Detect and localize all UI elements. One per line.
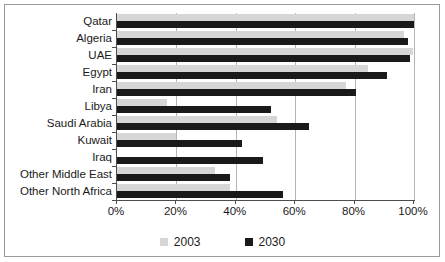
bar-2003 (117, 116, 277, 123)
bar-2003 (117, 99, 167, 106)
bar-group (117, 98, 414, 115)
gridline (414, 13, 415, 200)
bar-group (117, 166, 414, 183)
bar-group (117, 47, 414, 64)
category-tick (112, 98, 116, 99)
axis-tick (116, 200, 117, 204)
bar-2003 (117, 48, 413, 55)
category-tick (112, 200, 116, 201)
bar-2030 (117, 89, 356, 96)
category-tick (112, 81, 116, 82)
bar-2003 (117, 31, 404, 38)
legend-swatch-2003 (160, 238, 168, 246)
bar-2030 (117, 38, 408, 45)
bar-2003 (117, 133, 176, 140)
bar-2030 (117, 123, 309, 130)
bar-2003 (117, 82, 346, 89)
category-tick (112, 183, 116, 184)
category-label: Other North Africa (20, 183, 112, 200)
bar-2030 (117, 72, 387, 79)
bar-2003 (117, 184, 230, 191)
axis-tick-label: 0% (108, 205, 125, 217)
category-tick (112, 64, 116, 65)
axis-tick (354, 200, 355, 204)
category-label: Qatar (83, 13, 112, 30)
category-label: Saudi Arabia (47, 115, 112, 132)
category-label: Kuwait (77, 132, 112, 149)
axis-tick (413, 200, 414, 204)
bar-2030 (117, 106, 271, 113)
bar-2003 (117, 65, 368, 72)
bar-2030 (117, 21, 414, 28)
chart-screenshot: QatarAlgeriaUAEEgyptIranLibyaSaudi Arabi… (0, 0, 445, 262)
bar-group (117, 149, 414, 166)
axis-tick-label: 100% (398, 205, 427, 217)
axis-tick (294, 200, 295, 204)
bar-2030 (117, 174, 230, 181)
axis-tick (235, 200, 236, 204)
category-axis-labels: QatarAlgeriaUAEEgyptIranLibyaSaudi Arabi… (8, 13, 114, 200)
bar-2030 (117, 157, 263, 164)
bar-2030 (117, 191, 283, 198)
category-tick (112, 30, 116, 31)
category-label: UAE (88, 47, 112, 64)
axis-tick (175, 200, 176, 204)
axis-tick-label: 60% (283, 205, 306, 217)
bar-2003 (117, 167, 215, 174)
bar-2003 (117, 14, 414, 21)
category-label: Iran (92, 81, 112, 98)
legend-swatch-2030 (245, 238, 253, 246)
legend-item-2003[interactable]: 2003 (160, 235, 201, 249)
bar-group (117, 132, 414, 149)
chart-legend: 20032030 (0, 233, 445, 251)
bar-group (117, 183, 414, 200)
category-tick (112, 132, 116, 133)
category-label: Libya (85, 98, 113, 115)
bar-2030 (117, 140, 242, 147)
bar-group (117, 115, 414, 132)
legend-label: 2030 (259, 235, 286, 249)
bar-chart: QatarAlgeriaUAEEgyptIranLibyaSaudi Arabi… (0, 0, 445, 262)
category-tick (112, 115, 116, 116)
plot-area (116, 13, 415, 201)
category-tick (112, 149, 116, 150)
category-tick (112, 166, 116, 167)
category-label: Iraq (92, 149, 112, 166)
axis-tick-label: 80% (342, 205, 365, 217)
bar-group (117, 30, 414, 47)
category-label: Other Middle East (20, 166, 112, 183)
bar-group (117, 13, 414, 30)
category-label: Egypt (83, 64, 112, 81)
axis-tick-label: 20% (164, 205, 187, 217)
bar-2030 (117, 55, 410, 62)
axis-tick-label: 40% (223, 205, 246, 217)
legend-label: 2003 (174, 235, 201, 249)
bar-group (117, 81, 414, 98)
bar-group (117, 64, 414, 81)
category-tick (112, 47, 116, 48)
legend-item-2030[interactable]: 2030 (245, 235, 286, 249)
category-label: Algeria (76, 30, 112, 47)
